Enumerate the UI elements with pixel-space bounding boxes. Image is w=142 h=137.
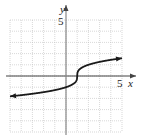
x-tick-5: 5: [117, 77, 123, 89]
y-axis-label: y: [59, 3, 65, 15]
y-tick-5: 5: [58, 15, 64, 27]
graph: y 5 5 x: [0, 0, 142, 137]
x-axis-label: x: [127, 77, 133, 89]
